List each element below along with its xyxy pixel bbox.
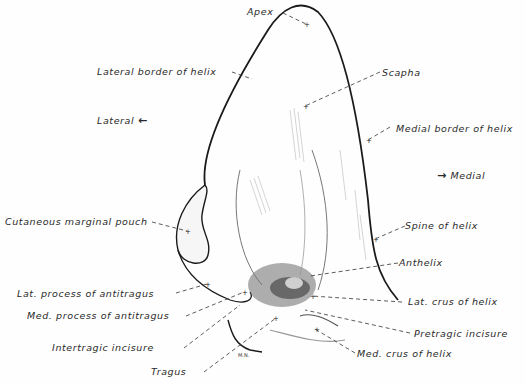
label-medial-border-of-helix: Medial border of helix xyxy=(396,123,513,134)
helix-outline xyxy=(204,6,398,300)
left-arrow-icon: ← xyxy=(138,114,148,127)
label-apex: Apex xyxy=(247,6,273,17)
svg-text:+: + xyxy=(185,228,191,236)
lateral-direction: Lateral ← xyxy=(97,115,148,126)
label-cutaneous-marginal-pouch: Cutaneous marginal pouch xyxy=(5,216,148,227)
lateral-label: Lateral xyxy=(97,115,134,126)
tragus-outline xyxy=(228,320,262,352)
label-med-crus-of-helix: Med. crus of helix xyxy=(357,348,452,359)
label-lateral-border-of-helix: Lateral border of helix xyxy=(97,66,216,77)
medial-label: Medial xyxy=(450,170,485,181)
inner-fold-right xyxy=(312,150,327,290)
right-arrow-icon: → xyxy=(437,169,447,182)
inner-fold-mid xyxy=(300,170,305,275)
anthelix-highlight xyxy=(285,277,303,289)
inner-fold-left xyxy=(236,170,262,285)
label-tragus: Tragus xyxy=(151,366,186,377)
svg-text:+: + xyxy=(304,21,310,29)
label-spine-of-helix: Spine of helix xyxy=(405,220,478,231)
svg-text:+: + xyxy=(366,137,372,145)
label-intertragic-incisure: Intertragic incisure xyxy=(52,342,154,353)
crus-fold xyxy=(300,315,338,326)
svg-text:+: + xyxy=(273,315,279,323)
label-med-process-of-antitragus: Med. process of antitragus xyxy=(27,310,169,321)
ear-anatomy-figure: +++ +++ +++ + M.N. Lateral ← → Medial Ap… xyxy=(0,0,526,385)
svg-text:+: + xyxy=(242,289,248,297)
marginal-pouch-outline xyxy=(177,185,209,263)
svg-text:+: + xyxy=(303,103,309,111)
label-lat-crus-of-helix: Lat. crus of helix xyxy=(408,296,498,307)
svg-text:+: + xyxy=(373,236,379,244)
label-lat-process-of-antitragus: Lat. process of antitragus xyxy=(17,288,154,299)
label-pretragic-incisure: Pretragic incisure xyxy=(414,328,508,339)
svg-text:+: + xyxy=(314,326,320,334)
base-shading xyxy=(270,330,345,341)
svg-text:+: + xyxy=(205,281,211,289)
hatching xyxy=(250,108,366,260)
label-anthelix: Anthelix xyxy=(399,257,443,268)
svg-text:+: + xyxy=(310,293,316,301)
medial-direction: → Medial xyxy=(437,170,485,181)
artist-signature: M.N. xyxy=(238,352,250,358)
label-scapha: Scapha xyxy=(382,67,421,78)
